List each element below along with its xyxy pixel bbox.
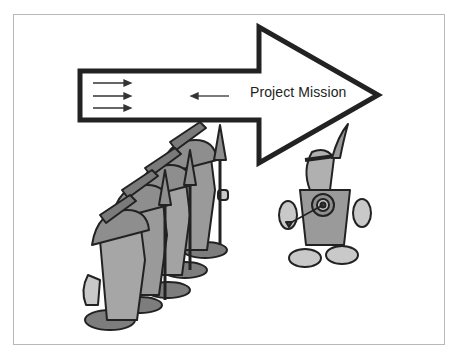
clipart-scene bbox=[0, 0, 455, 356]
arrow-label: Project Mission bbox=[250, 84, 346, 100]
soldiers-icon bbox=[83, 122, 228, 330]
